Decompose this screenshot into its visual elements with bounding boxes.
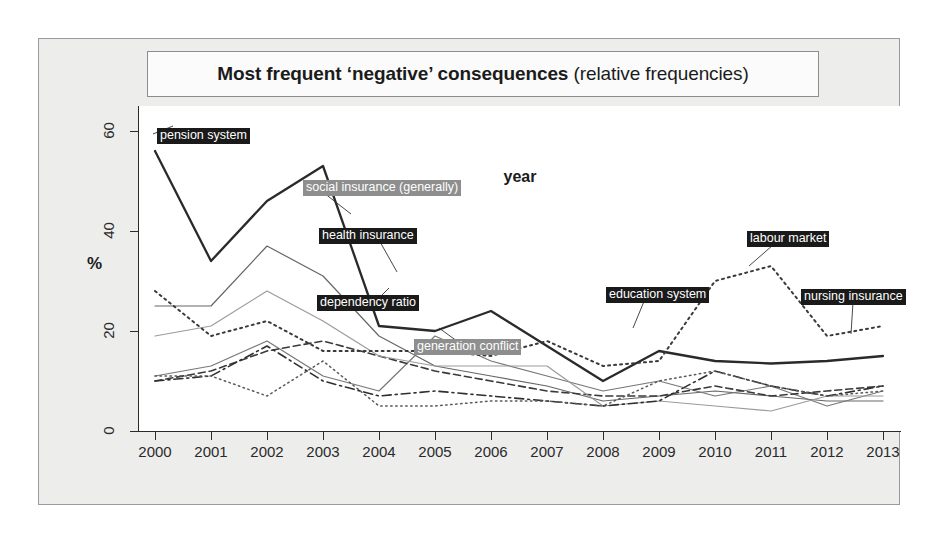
chart-title-box: Most frequent ‘negative’ consequences (r… [147, 51, 819, 97]
x-tick-label: 2003 [298, 443, 348, 460]
y-axis-title: % [87, 254, 102, 274]
label-leader-line [379, 240, 397, 272]
chart-lines-svg [139, 106, 901, 431]
x-tick-label: 2007 [522, 443, 572, 460]
label-leader-line [851, 302, 853, 334]
x-tick-mark [491, 432, 492, 440]
series-label-health-insurance: health insurance [319, 228, 417, 244]
x-tick-label: 2004 [354, 443, 404, 460]
plot-area: pension system social insurance (general… [139, 106, 901, 431]
x-tick-label: 2011 [746, 443, 796, 460]
x-tick-label: 2005 [410, 443, 460, 460]
x-tick-label: 2008 [578, 443, 628, 460]
x-tick-label: 2006 [466, 443, 516, 460]
label-leader-line [749, 245, 773, 266]
x-tick-mark [323, 432, 324, 440]
y-axis-line [138, 106, 139, 432]
page-title: Most frequent ‘negative’ consequences (r… [217, 63, 748, 85]
x-axis-line [138, 431, 901, 432]
series-label-education-system: education system [606, 287, 709, 303]
x-tick-label: 2013 [858, 443, 908, 460]
x-tick-mark [547, 432, 548, 440]
x-tick-label: 2000 [130, 443, 180, 460]
x-tick-label: 2012 [802, 443, 852, 460]
y-tick-mark [130, 331, 138, 332]
series-label-pension-system: pension system [157, 128, 250, 144]
y-tick-mark [130, 431, 138, 432]
title-normal: (relative frequencies) [568, 63, 748, 84]
x-tick-label: 2002 [242, 443, 292, 460]
y-tick-mark [130, 131, 138, 132]
y-tick-label: 20 [100, 316, 117, 346]
x-tick-label: 2009 [634, 443, 684, 460]
series-label-generation-conflict: generation conflict [414, 339, 521, 355]
series-line-education-system [155, 346, 883, 406]
y-tick-label: 40 [100, 216, 117, 246]
x-tick-mark [211, 432, 212, 440]
x-tick-mark [267, 432, 268, 440]
series-label-labour-market: labour market [747, 231, 829, 247]
x-tick-label: 2010 [690, 443, 740, 460]
y-tick-mark [130, 231, 138, 232]
x-tick-mark [379, 432, 380, 440]
x-tick-mark [659, 432, 660, 440]
y-tick-label: 60 [100, 116, 117, 146]
figure-frame: Most frequent ‘negative’ consequences (r… [38, 38, 900, 505]
x-tick-mark [771, 432, 772, 440]
x-tick-mark [827, 432, 828, 440]
series-label-dependency-ratio: dependency ratio [317, 295, 419, 311]
x-tick-mark [715, 432, 716, 440]
x-tick-mark [435, 432, 436, 440]
x-tick-mark [155, 432, 156, 440]
x-tick-mark [603, 432, 604, 440]
chart-figure: Most frequent ‘negative’ consequences (r… [0, 0, 935, 535]
x-tick-mark [883, 432, 884, 440]
y-tick-label: 0 [100, 416, 117, 446]
x-axis-title: year [139, 168, 901, 186]
label-leader-line [633, 299, 645, 328]
series-label-nursing-insurance: nursing insurance [801, 289, 906, 305]
plot-wrapper: % pension system social insurance (gener… [101, 106, 901, 496]
x-tick-label: 2001 [186, 443, 236, 460]
title-strong: Most frequent ‘negative’ consequences [217, 63, 568, 84]
